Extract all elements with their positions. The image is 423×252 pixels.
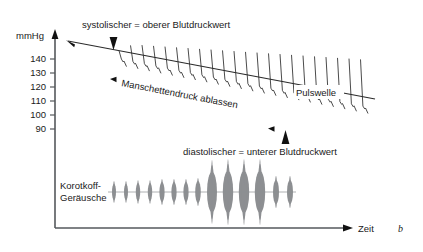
tick-label-120: 120	[30, 81, 46, 92]
korotkoff-label-line2: Geräusche	[60, 192, 106, 203]
panel-letter: b	[398, 223, 403, 234]
pulse-wave	[326, 57, 334, 107]
pulse-wave	[142, 45, 150, 71]
pulse-wave	[211, 50, 219, 85]
systolic-annotation-group: systolischer = oberer Blutdruckwert	[82, 19, 230, 50]
pulse-wave	[349, 59, 357, 112]
pulse-wave	[280, 54, 288, 98]
systolic-annotation-label: systolischer = oberer Blutdruckwert	[82, 19, 230, 30]
pulse-wave	[200, 49, 208, 82]
pulse-wave	[257, 53, 265, 94]
y-axis-ticks: 140 130 120 110 100 90	[30, 53, 55, 134]
y-axis-unit-label: mmHg	[16, 30, 44, 41]
diagram-canvas: 140 130 120 110 100 90 mmHg	[0, 0, 423, 252]
pulse-wave	[131, 45, 139, 68]
pulse-wave	[246, 52, 254, 91]
cuff-annotation-arrowhead-right	[268, 126, 275, 132]
tick-label-110: 110	[31, 95, 46, 106]
pulse-wave	[234, 51, 242, 89]
cuff-annotation-group: Manschettendruck ablassen	[110, 77, 275, 132]
pulse-wave	[269, 53, 277, 95]
pulse-annotation-group: Pulswelle	[294, 85, 344, 99]
systolic-down-arrow-icon	[110, 37, 118, 50]
diastolic-annotation-label: diastolischer = unterer Blutdruckwert	[183, 146, 337, 157]
pulse-wave	[338, 58, 346, 109]
y-axis-arrowhead	[52, 29, 59, 39]
x-axis-arrowhead	[343, 225, 353, 232]
x-axis-label: Zeit	[358, 223, 374, 234]
korotkoff-label-group: Korotkoff- Geräusche	[60, 180, 106, 203]
tick-label-130: 130	[30, 67, 46, 78]
diastolic-annotation-group: diastolischer = unterer Blutdruckwert	[183, 130, 337, 157]
diastolic-up-arrow-icon	[282, 130, 290, 144]
cuff-annotation-label: Manschettendruck ablassen	[121, 77, 239, 110]
korotkoff-label-line1: Korotkoff-	[60, 180, 101, 191]
pulse-wave	[361, 59, 369, 113]
tick-label-90: 90	[35, 123, 46, 134]
pulse-wave-train	[119, 45, 368, 113]
pulse-wave	[154, 46, 162, 73]
tick-label-100: 100	[30, 109, 46, 120]
blood-pressure-diagram: 140 130 120 110 100 90 mmHg	[0, 0, 423, 252]
tick-label-140: 140	[30, 53, 46, 64]
cuff-annotation-arrowhead-left	[110, 77, 117, 83]
pulse-wave	[119, 51, 127, 67]
pulse-wave	[223, 50, 231, 86]
pulse-annotation-label: Pulswelle	[296, 87, 336, 98]
korotkoff-sound-bursts	[108, 159, 296, 225]
